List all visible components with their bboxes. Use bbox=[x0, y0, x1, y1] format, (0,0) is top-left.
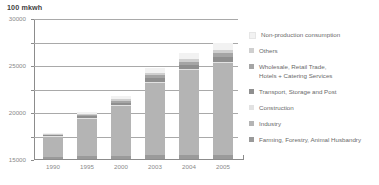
legend-item-label: Transport, Storage and Post bbox=[259, 88, 337, 97]
gridline bbox=[34, 43, 238, 44]
bar-segment[interactable] bbox=[213, 155, 233, 159]
legend-item[interactable]: Industry bbox=[249, 120, 377, 129]
bar-segment[interactable] bbox=[77, 119, 97, 156]
gridline bbox=[34, 137, 238, 138]
legend-item[interactable]: Others bbox=[249, 47, 377, 56]
bar-stack[interactable] bbox=[77, 112, 97, 159]
bar-group[interactable]: 1990 bbox=[43, 133, 63, 159]
bar-segment[interactable] bbox=[111, 156, 131, 159]
y-axis-tick-label: 15000 bbox=[9, 157, 26, 163]
bar-segment[interactable] bbox=[77, 156, 97, 159]
legend-swatch-icon bbox=[249, 121, 254, 126]
gridline bbox=[34, 90, 238, 91]
x-axis-tick-label: 2000 bbox=[114, 164, 128, 170]
legend-swatch-icon bbox=[249, 64, 254, 69]
x-axis-tick-label: 1990 bbox=[46, 164, 60, 170]
bar-segment[interactable] bbox=[111, 106, 131, 155]
legend-item-label: Wholesale, Retail Trade, Hotels + Cateri… bbox=[259, 63, 332, 80]
legend-item-label: Non-production consumption bbox=[261, 31, 340, 40]
bar-stack[interactable] bbox=[213, 43, 233, 159]
gridline bbox=[34, 66, 238, 67]
x-axis-line bbox=[34, 159, 244, 160]
legend-swatch-icon bbox=[249, 32, 256, 39]
bar-group[interactable]: 2004 bbox=[179, 53, 199, 159]
legend-swatch-icon bbox=[249, 137, 254, 142]
legend-item-label: Farming, Forestry, Animal Husbandry bbox=[259, 136, 361, 145]
bar-stack[interactable] bbox=[43, 133, 63, 159]
bar-segment[interactable] bbox=[179, 155, 199, 159]
legend-item[interactable]: Transport, Storage and Post bbox=[249, 88, 377, 97]
y-axis-tick: 10000 bbox=[31, 113, 34, 114]
y-axis-tick: 15000 bbox=[31, 90, 34, 91]
chart-legend: Non-production consumptionOthersWholesal… bbox=[249, 31, 377, 152]
y-axis-tick-label: 25000 bbox=[9, 63, 26, 69]
bar-stack[interactable] bbox=[145, 68, 165, 159]
legend-item-label: Industry bbox=[259, 120, 281, 129]
bar-segment[interactable] bbox=[213, 63, 233, 155]
legend-swatch-icon bbox=[249, 48, 254, 53]
stacked-bar-chart: 100 mkwh 050001000015000200002500030000 … bbox=[0, 0, 379, 185]
plot-inner: 050001000015000200002500030000 199019952… bbox=[34, 19, 238, 160]
bar-stack[interactable] bbox=[179, 53, 199, 159]
bar-group[interactable]: 2003 bbox=[145, 68, 165, 159]
y-axis-tick: 0 bbox=[31, 160, 34, 161]
legend-swatch-icon bbox=[249, 105, 254, 110]
bar-segment[interactable] bbox=[145, 83, 165, 156]
plot-area: 050001000015000200002500030000 199019952… bbox=[34, 19, 238, 160]
legend-item-label: Construction bbox=[259, 104, 294, 113]
y-axis-tick-label: 20000 bbox=[9, 110, 26, 116]
legend-item[interactable]: Wholesale, Retail Trade, Hotels + Cateri… bbox=[249, 63, 377, 80]
bar-segment[interactable] bbox=[43, 137, 63, 157]
x-axis-tick-label: 2004 bbox=[182, 164, 196, 170]
bar-group[interactable]: 2005 bbox=[213, 43, 233, 159]
gridline bbox=[34, 113, 238, 114]
y-axis-tick: 5000 bbox=[31, 137, 34, 138]
legend-item-label: Others bbox=[259, 47, 278, 56]
legend-item[interactable]: Farming, Forestry, Animal Husbandry bbox=[249, 136, 377, 145]
x-axis-tick-label: 2005 bbox=[216, 164, 230, 170]
x-axis-tick-label: 2003 bbox=[148, 164, 162, 170]
y-axis-tick-label: 30000 bbox=[9, 16, 26, 22]
y-axis-tick: 30000 bbox=[31, 19, 34, 20]
legend-swatch-icon bbox=[249, 89, 254, 94]
y-axis-tick: 25000 bbox=[31, 43, 34, 44]
legend-item[interactable]: Non-production consumption bbox=[249, 31, 377, 40]
gridline bbox=[34, 19, 238, 20]
bar-segment[interactable] bbox=[213, 43, 233, 50]
legend-item[interactable]: Construction bbox=[249, 104, 377, 113]
bar-segment[interactable] bbox=[179, 70, 199, 155]
x-axis-endcap bbox=[243, 155, 244, 160]
bar-stack[interactable] bbox=[111, 96, 131, 159]
bar-group[interactable]: 2000 bbox=[111, 96, 131, 159]
chart-title: 100 mkwh bbox=[7, 3, 42, 12]
x-axis-tick-label: 1995 bbox=[80, 164, 94, 170]
bar-group[interactable]: 1995 bbox=[77, 112, 97, 159]
bar-segment[interactable] bbox=[145, 155, 165, 159]
y-axis-tick: 20000 bbox=[31, 66, 34, 67]
bar-segment[interactable] bbox=[43, 157, 63, 159]
